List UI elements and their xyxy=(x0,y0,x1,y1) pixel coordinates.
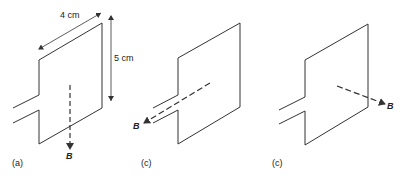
panel-c-field-label: B xyxy=(387,102,394,111)
panel-a-label: (a) xyxy=(12,159,23,168)
coil-field-diagram: 4 cm 5 cm B (a) B (c) B (c) xyxy=(0,0,401,178)
height-dimension-label: 5 cm xyxy=(114,54,134,63)
panel-a-loop xyxy=(13,23,102,144)
panel-c-field-arrow xyxy=(337,86,385,104)
width-dimension-label: 4 cm xyxy=(60,11,80,20)
panel-b-field-label: B xyxy=(133,122,140,131)
panel-c-loop xyxy=(279,24,368,145)
panel-b-loop xyxy=(153,23,240,144)
diagram-canvas xyxy=(0,0,401,178)
panel-b-label: (c) xyxy=(141,159,152,168)
panel-c-label: (c) xyxy=(272,159,283,168)
panel-b-field-arrow xyxy=(144,83,210,123)
panel-a-field-label: B xyxy=(66,152,73,161)
